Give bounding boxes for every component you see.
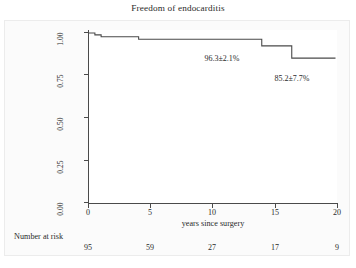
annotation-estimate-10yr: 96.3±2.1% [204,54,239,63]
x-axis-tick-label: 15 [260,208,290,217]
x-axis-tick-label: 0 [73,208,103,217]
x-axis-tick-label: 20 [322,208,352,217]
x-axis-tick-label: 10 [197,208,227,217]
figure-container: Freedom of endocarditis 1.00 0.75 0.50 0… [0,0,356,268]
y-axis-tick-label: 0.75 [56,75,65,115]
x-axis-title: years since surgery [88,219,338,228]
chart-title: Freedom of endocarditis [0,3,356,13]
risk-count: 59 [135,243,165,252]
risk-count: 9 [322,243,352,252]
y-axis-tick-label: 1.00 [56,33,65,73]
risk-count: 27 [197,243,227,252]
y-axis-tick-label: 0.25 [56,161,65,201]
risk-count: 95 [73,243,103,252]
annotation-estimate-20yr: 85.2±7.7% [274,74,309,83]
x-axis-tick-label: 5 [135,208,165,217]
y-axis-tick-label: 0.50 [56,118,65,158]
risk-table-title: Number at risk [14,232,63,241]
risk-count: 17 [260,243,290,252]
